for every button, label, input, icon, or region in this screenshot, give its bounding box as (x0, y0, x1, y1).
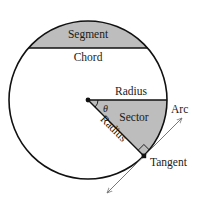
radius-horizontal-label: Radius (115, 85, 147, 97)
sector-label: Sector (119, 111, 149, 123)
sector-region (88, 100, 167, 156)
chord-label: Chord (74, 51, 103, 63)
tangent-label: Tangent (150, 156, 188, 169)
center-point (86, 98, 91, 103)
segment-label: Segment (68, 28, 109, 41)
tangent-point (142, 154, 147, 159)
circle-parts-diagram: Segment Chord Radius θ Sector Radius Arc… (0, 0, 200, 203)
arc-label: Arc (171, 103, 188, 115)
